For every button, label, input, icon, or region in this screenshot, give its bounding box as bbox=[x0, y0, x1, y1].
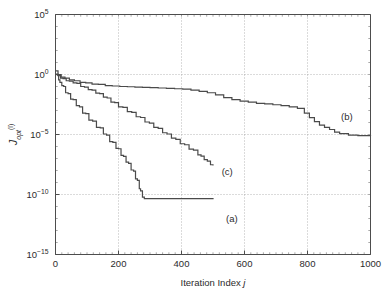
annotation-b: (b) bbox=[341, 111, 353, 122]
x-axis-label: Iteration Index j bbox=[181, 277, 247, 288]
annotation-c: (c) bbox=[222, 166, 233, 177]
x-tick-label: 800 bbox=[300, 258, 316, 269]
x-tick-label: 400 bbox=[174, 258, 190, 269]
x-tick-label: 200 bbox=[111, 258, 127, 269]
x-axis-label-text: Iteration Index j bbox=[181, 277, 247, 288]
figure-container: 02004006008001000 10510010−510−1010−15 (… bbox=[0, 0, 389, 301]
line-chart: 02004006008001000 10510010−510−1010−15 (… bbox=[0, 0, 389, 301]
annotation-a: (a) bbox=[226, 213, 238, 224]
x-tick-label: 1000 bbox=[360, 258, 381, 269]
x-tick-label: 0 bbox=[53, 258, 58, 269]
x-tick-label: 600 bbox=[237, 258, 253, 269]
